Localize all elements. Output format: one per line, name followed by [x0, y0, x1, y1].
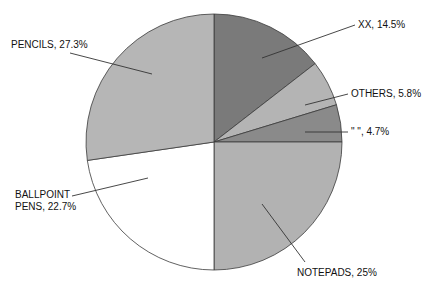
pie-chart: XX, 14.5%OTHERS, 5.8%" ", 4.7%NOTEPADS, …	[0, 0, 423, 283]
pie-slice-notepads	[214, 142, 342, 270]
data-label: OTHERS, 5.8%	[351, 88, 421, 99]
data-label: " ", 4.7%	[351, 126, 389, 137]
data-label: BALLPOINTPENS, 22.7%	[15, 189, 76, 212]
data-label: NOTEPADS, 25%	[297, 267, 377, 278]
pie-slice-ballpoint-pens	[87, 142, 214, 270]
data-label: XX, 14.5%	[358, 19, 405, 30]
data-label: PENCILS, 27.3%	[11, 39, 88, 50]
pie-slice-pencils	[86, 14, 214, 160]
